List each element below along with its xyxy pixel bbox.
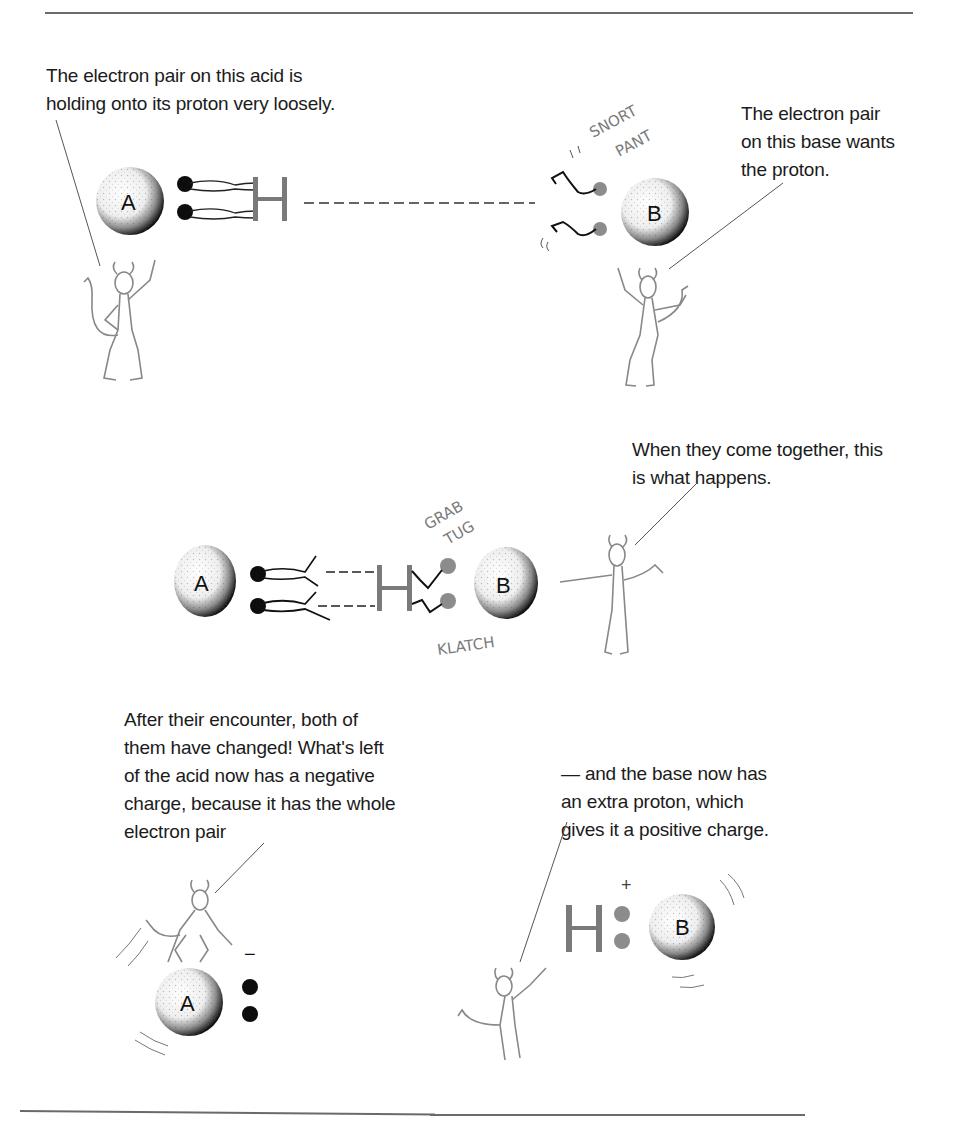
electron-pair-base bbox=[412, 558, 456, 612]
atom-a: A bbox=[96, 167, 164, 235]
electron-pair-acid bbox=[177, 176, 257, 220]
electron-pair-base bbox=[541, 146, 607, 251]
svg-text:A: A bbox=[121, 190, 136, 215]
sfx-pant: PANT bbox=[612, 126, 655, 160]
panel-1: A B bbox=[56, 101, 783, 386]
atom-b: B bbox=[621, 178, 689, 246]
electron-pair-acid bbox=[250, 556, 330, 620]
atom-a: A bbox=[155, 968, 223, 1036]
illustration-canvas: A B bbox=[0, 0, 967, 1146]
proton-h bbox=[253, 177, 287, 221]
devil-figure bbox=[146, 880, 232, 962]
pointer-line bbox=[520, 822, 567, 962]
panel-2: A B GRAB TUG KLATCH bbox=[174, 483, 697, 659]
atom-b: B bbox=[474, 547, 538, 619]
panel-3: A − + B bbox=[116, 822, 744, 1060]
positive-charge: + bbox=[621, 875, 632, 895]
svg-text:B: B bbox=[647, 201, 662, 226]
devil-figure bbox=[618, 268, 688, 386]
atom-b: B bbox=[649, 894, 715, 960]
atom-a: A bbox=[174, 545, 236, 617]
devil-figure bbox=[84, 260, 155, 380]
proton-h bbox=[377, 565, 412, 611]
pointer-line bbox=[56, 120, 100, 266]
svg-text:B: B bbox=[496, 573, 511, 598]
pointer-line bbox=[215, 843, 264, 893]
devil-figure bbox=[458, 968, 546, 1060]
pointer-line bbox=[635, 483, 697, 545]
devil-figure bbox=[560, 535, 663, 654]
negative-charge: − bbox=[244, 943, 256, 965]
svg-text:B: B bbox=[675, 915, 690, 940]
electron-pair-acid bbox=[242, 979, 258, 1022]
svg-text:A: A bbox=[180, 991, 195, 1016]
electron-pair-base bbox=[614, 906, 630, 949]
sfx-klatch: KLATCH bbox=[436, 633, 496, 659]
svg-text:A: A bbox=[194, 571, 209, 596]
proton-h bbox=[566, 905, 602, 952]
pointer-line bbox=[669, 183, 783, 269]
